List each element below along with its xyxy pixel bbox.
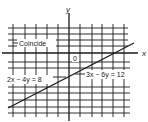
coincide-label: Coincide [19, 40, 46, 47]
origin-label: 0 [73, 55, 77, 62]
y-axis-label: y [65, 5, 71, 14]
x-axis-label: x [141, 49, 147, 58]
equation-2-label: 3x − 6y = 12 [86, 71, 125, 79]
equation-1-label: 2x − 4y = 8 [7, 76, 42, 84]
coordinate-graph: y x 0 Coincide 2x − 4y = 8 3x − 6y = 12 [0, 0, 148, 122]
